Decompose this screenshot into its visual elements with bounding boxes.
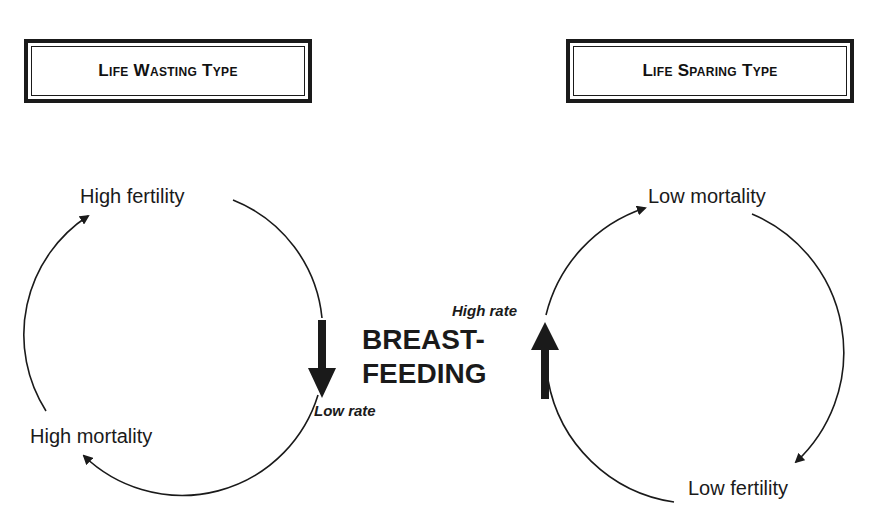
right-title-box: Life Sparing Type [566, 39, 854, 103]
left-arc-left [24, 216, 88, 411]
right-arc-top-left [546, 208, 645, 315]
left-title: Life Wasting Type [31, 46, 305, 96]
right-cycle [531, 208, 844, 502]
node-low-mortality: Low mortality [648, 185, 766, 208]
breastfeeding-line2: FEEDING [362, 357, 486, 391]
node-high-fertility: High fertility [80, 185, 184, 208]
breastfeeding-line1: BREAST- [362, 323, 486, 357]
right-arc-bottom-left [548, 380, 674, 502]
right-arc-right [752, 214, 844, 462]
low-rate-label: Low rate [314, 402, 376, 419]
left-title-box: Life Wasting Type [24, 39, 312, 103]
node-low-fertility: Low fertility [688, 477, 788, 500]
node-high-mortality: High mortality [30, 425, 152, 448]
left-cycle [24, 200, 336, 495]
left-arc-top-right [233, 200, 322, 318]
right-title: Life Sparing Type [573, 46, 847, 96]
high-rate-label: High rate [452, 302, 517, 319]
thick-down-arrow-icon [308, 320, 336, 398]
breastfeeding-label: BREAST- FEEDING [362, 323, 486, 391]
thick-up-arrow-icon [531, 322, 559, 399]
